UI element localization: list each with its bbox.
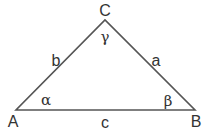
side-label-a: a <box>152 53 161 69</box>
vertex-label-c: C <box>99 3 111 19</box>
vertex-label-a: A <box>8 114 19 130</box>
angle-label-gamma: γ <box>101 29 110 45</box>
angle-label-beta: β <box>164 93 173 109</box>
vertex-label-b: B <box>191 114 202 130</box>
side-label-c: c <box>101 115 109 131</box>
side-label-b: b <box>52 53 61 69</box>
angle-label-alpha: α <box>41 92 51 108</box>
